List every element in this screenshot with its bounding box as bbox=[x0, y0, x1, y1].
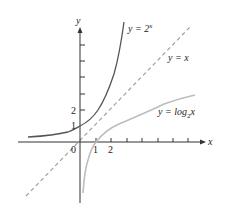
exponential-label: y = 2x bbox=[127, 22, 153, 34]
y-tick-label-1: 1 bbox=[71, 120, 76, 131]
x-tick-label-2: 2 bbox=[108, 144, 113, 155]
origin-label: 0 bbox=[71, 144, 76, 155]
x-axis-arrow-icon bbox=[200, 140, 206, 145]
y-axis-arrow-icon bbox=[78, 27, 83, 33]
x-axis-ticks bbox=[96, 138, 188, 142]
exponential-curve bbox=[28, 22, 124, 137]
y-axis-ticks bbox=[80, 45, 85, 110]
x-tick-label-1: 1 bbox=[93, 144, 98, 155]
logarithm-label: y = log2x bbox=[157, 106, 195, 120]
function-graph: y x 0 1 2 2 1 y = 2x y = x y = log2x bbox=[0, 0, 227, 211]
y-axis-label: y bbox=[75, 15, 81, 26]
x-axis-label: x bbox=[207, 136, 213, 147]
y-tick-label-2: 2 bbox=[71, 105, 76, 116]
identity-label: y = x bbox=[167, 52, 189, 63]
